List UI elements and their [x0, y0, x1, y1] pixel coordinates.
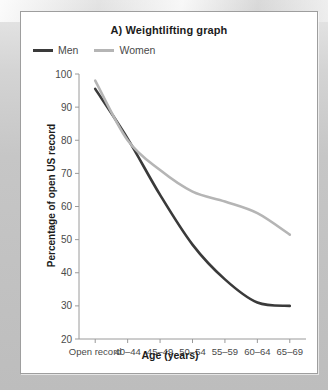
y-tick-label: 20: [61, 334, 73, 345]
y-tick-label: 80: [61, 135, 73, 146]
y-tick-label: 60: [61, 201, 73, 212]
axes-group: 2030405060708090100Open record40–4445–49…: [55, 69, 306, 358]
figure-card: A) Weightlifting graph Men Women 2030405…: [20, 11, 318, 374]
series-group: [95, 81, 290, 306]
series-line-women: [95, 81, 290, 235]
y-tick-label: 30: [61, 300, 73, 311]
line-chart-svg: 2030405060708090100Open record40–4445–49…: [21, 12, 319, 375]
x-axis-label: Age (years): [21, 349, 319, 361]
y-tick-label: 70: [61, 168, 73, 179]
y-tick-label: 50: [61, 234, 73, 245]
y-axis-label: Percentage of open US record: [46, 111, 57, 281]
y-tick-label: 90: [61, 102, 73, 113]
y-tick-label: 40: [61, 267, 73, 278]
series-line-men: [95, 89, 290, 306]
y-tick-label: 100: [55, 69, 72, 80]
plot-area: 2030405060708090100Open record40–4445–49…: [21, 12, 319, 375]
